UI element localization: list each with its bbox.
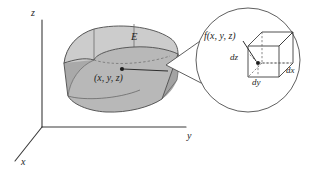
z-axis-label: z	[31, 8, 35, 18]
figure-canvas	[0, 0, 321, 177]
x-axis	[15, 127, 42, 161]
triple-integral-figure: z y x E (x, y, z) f(x, y, z) dz dy dx	[0, 0, 321, 177]
y-axis-label: y	[187, 131, 191, 141]
dz-label: dz	[230, 53, 238, 62]
x-axis-label: x	[21, 157, 25, 167]
solid-region-label: E	[131, 32, 137, 43]
function-value-label: f(x, y, z)	[204, 31, 236, 41]
dy-label: dy	[252, 78, 261, 87]
dx-label: dx	[286, 66, 295, 75]
sample-point-label: (x, y, z)	[94, 73, 123, 83]
